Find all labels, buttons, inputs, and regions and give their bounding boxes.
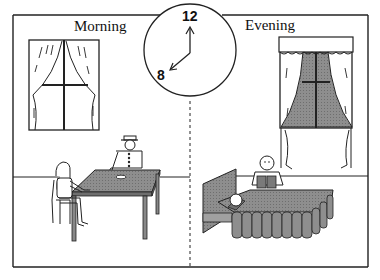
morning-table (72, 170, 160, 241)
evening-window (279, 37, 353, 169)
scene-svg (0, 0, 380, 280)
morning-label: Morning (74, 18, 127, 35)
man-reading (252, 156, 283, 188)
clock-number-12: 12 (182, 8, 198, 24)
evening-label: Evening (245, 17, 295, 34)
clock-number-8: 8 (157, 67, 165, 83)
illustration-scene: Morning Evening 12 8 (0, 0, 380, 280)
morning-window (29, 40, 99, 130)
